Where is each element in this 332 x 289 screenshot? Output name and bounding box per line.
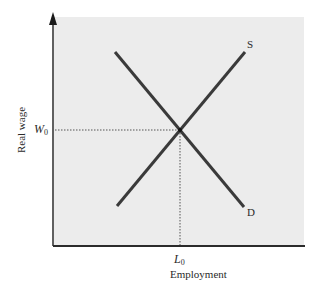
wage-equilibrium-label: W0 <box>34 122 48 137</box>
x-axis-title: Employment <box>170 268 227 280</box>
wage-eq-subscript: 0 <box>44 128 48 137</box>
demand-label: D <box>247 206 255 218</box>
wage-eq-letter: W <box>34 122 44 136</box>
equilibrium-point <box>178 128 182 132</box>
y-axis-title: Real wage <box>15 100 27 160</box>
emp-eq-letter: L <box>174 252 181 266</box>
labor-market-diagram <box>0 0 332 289</box>
supply-label: S <box>247 38 253 50</box>
emp-eq-subscript: 0 <box>181 258 185 267</box>
employment-equilibrium-label: L0 <box>174 252 185 267</box>
